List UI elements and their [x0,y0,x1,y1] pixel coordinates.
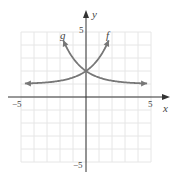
axes [8,10,170,172]
y-axis-arrow-icon [83,10,89,18]
y-max-tick-label: 5 [79,25,84,35]
x-max-tick-label: 5 [148,99,153,109]
curve-g-right-arrow-icon [141,80,147,86]
curve-f-left-arrow-icon [25,80,31,86]
curve-g-label: g [60,29,66,41]
x-min-tick-label: −5 [12,99,22,109]
graph: y x −5 5 5 −5 g f [0,0,177,180]
y-min-tick-label: −5 [73,160,83,170]
x-axis-label: x [162,102,168,114]
curve-f-label: f [106,29,111,41]
x-axis-arrow-icon [162,94,170,100]
y-axis-label: y [91,8,97,20]
